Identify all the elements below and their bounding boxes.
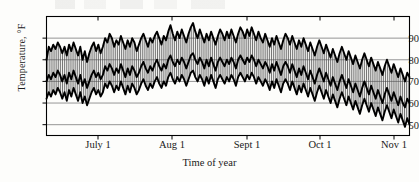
plot-canvas (0, 0, 419, 182)
temperature-band-chart: Temperature, °F 5060708090 July 1Aug 1Se… (0, 0, 419, 182)
